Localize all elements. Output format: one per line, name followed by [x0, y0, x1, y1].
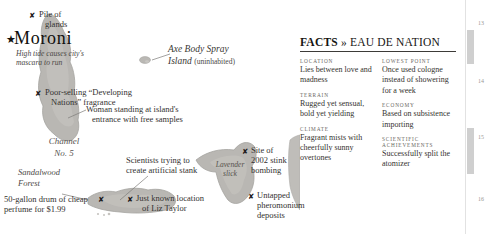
facts-columns: LOCATION Lies between love and madness T… — [300, 58, 458, 176]
marker-label-stink-line3: bombing — [251, 165, 281, 175]
marker-label-scientists-line1: Scientists trying to — [126, 155, 190, 165]
page-number-16[interactable]: 16 — [478, 196, 484, 202]
fact-def-terrain: Rugged yet sensual, bold yet yielding — [300, 99, 373, 120]
marker-x-icon-drum: ✘ — [98, 196, 104, 204]
city-subtitle-line2: mascara to run — [16, 58, 62, 67]
marker-label-fragrance-line1: Poor-selling “Developing — [45, 87, 132, 97]
facts-divider — [300, 51, 456, 52]
facts-left-column: LOCATION Lies between love and madness T… — [300, 58, 373, 176]
fact-def-climate: Fragrant mists with cheerfully sunny ove… — [300, 133, 373, 164]
page-number-14[interactable]: 14 — [478, 78, 484, 84]
page-thumbnail-strip[interactable]: 13 14 15 16 — [458, 0, 489, 234]
page-number-15[interactable]: 15 — [478, 134, 484, 140]
fact-def-scientific-achievements: Successfully split the atomizer — [382, 149, 455, 170]
magazine-page: ★ Moroni High tide causes city's mascara… — [0, 0, 489, 234]
marker-x-icon-pheromonium: ✘ — [248, 193, 254, 201]
label-channel-line2: No. 5 — [34, 148, 94, 160]
label-axe-island-line1: Axe Body Spray — [168, 44, 229, 56]
facts-heading-rest: EAU DE NATION — [350, 36, 440, 48]
label-axe-island-line2: Island (uninhabited) — [168, 56, 235, 68]
fact-lowest-point: LOWEST POINT Once used cologne instead o… — [382, 58, 455, 96]
fact-term-scientific-achievements: SCIENTIFIC ACHIEVEMENTS — [382, 136, 455, 148]
marker-label-scientists-line2: create artificial stank — [126, 165, 197, 175]
fact-economy: ECONOMY Based on subsistence importing — [382, 102, 455, 130]
facts-heading-bold: FACTS — [300, 36, 338, 48]
label-axe-island-note: (uninhabited) — [194, 57, 235, 66]
fact-term-terrain: TERRAIN — [300, 92, 373, 98]
marker-label-glands-line2: glands — [45, 19, 67, 29]
fact-term-location: LOCATION — [300, 58, 373, 64]
marker-label-samples-line2: entrance with free samples — [92, 114, 183, 124]
marker-label-drum-line2: perfume for $1.99 — [4, 204, 66, 214]
marker-x-icon-glands: ✘ — [29, 12, 35, 20]
fact-terrain: TERRAIN Rugged yet sensual, bold yet yie… — [300, 92, 373, 120]
marker-x-icon-stink-bombing: ✘ — [242, 148, 248, 156]
page-tab-14[interactable] — [467, 30, 474, 64]
marker-label-samples-line1: Woman standing at island's — [86, 104, 179, 114]
label-lavender-slick-line2: slick — [205, 169, 255, 178]
marker-label-glands-line1: Pile of — [39, 9, 61, 19]
map-illustration: ★ Moroni High tide causes city's mascara… — [0, 0, 300, 234]
marker-label-pheromonium-line1: Untapped — [257, 190, 290, 200]
label-lavender-slick-line1: Lavender — [205, 160, 255, 169]
facts-heading-guillemet-icon: » — [341, 36, 347, 48]
fact-def-lowest-point: Once used cologne instead of showering f… — [382, 65, 455, 96]
label-sandalwood-line2: Forest — [18, 178, 40, 189]
marker-label-liz-taylor-line1: Just known location — [136, 193, 204, 203]
strip-divider — [465, 0, 466, 234]
label-channel-line1: Channel — [34, 136, 94, 148]
fact-def-location: Lies between love and madness — [300, 65, 373, 86]
page-number-13[interactable]: 13 — [478, 20, 484, 26]
marker-label-pheromonium-line2: pheromonium deposits — [257, 200, 305, 221]
facts-panel: FACTS » EAU DE NATION LOCATION Lies betw… — [300, 36, 458, 176]
marker-label-stink-line1: Site of — [251, 145, 273, 155]
fact-term-economy: ECONOMY — [382, 102, 455, 108]
marker-label-drum-line1: 50-gallon drum of cheap — [4, 194, 88, 204]
page-tab-16[interactable] — [467, 128, 474, 174]
marker-x-icon-liz-taylor: ✘ — [127, 196, 133, 204]
marker-x-icon-fragrance: ✘ — [35, 90, 41, 98]
marker-label-stink-line2: 2002 stink — [251, 155, 287, 165]
label-sandalwood-line1: Sandalwood — [18, 167, 60, 178]
fact-climate: CLIMATE Fragrant mists with cheerfully s… — [300, 126, 373, 164]
fact-def-economy: Based on subsistence importing — [382, 109, 455, 130]
city-name-moroni: Moroni — [14, 28, 72, 49]
fact-term-climate: CLIMATE — [300, 126, 373, 132]
fact-scientific-achievements: SCIENTIFIC ACHIEVEMENTS Successfully spl… — [382, 136, 455, 170]
fact-term-lowest-point: LOWEST POINT — [382, 58, 455, 64]
marker-label-liz-taylor-line2: of Liz Taylor — [142, 203, 187, 213]
facts-heading: FACTS » EAU DE NATION — [300, 36, 458, 48]
fact-location: LOCATION Lies between love and madness — [300, 58, 373, 86]
facts-right-column: LOWEST POINT Once used cologne instead o… — [382, 58, 455, 176]
